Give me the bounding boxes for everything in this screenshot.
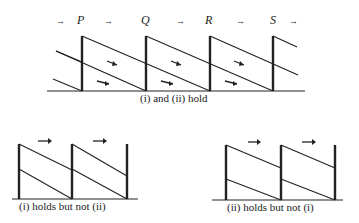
- flow-arrow-icon: →: [289, 16, 298, 26]
- label-r: R: [205, 13, 212, 28]
- flow-arrow-icon: →: [56, 16, 65, 26]
- diagram-canvas: [0, 0, 359, 223]
- caption-top: (i) and (ii) hold: [140, 92, 208, 104]
- caption-bottom-left: (i) holds but not (ii): [19, 200, 106, 212]
- flow-arrow-icon: →: [176, 16, 185, 26]
- flow-arrow-icon: →: [104, 16, 113, 26]
- label-q: Q: [141, 13, 150, 28]
- label-s: S: [270, 13, 276, 28]
- label-p: P: [77, 13, 84, 28]
- caption-bottom-right: (ii) holds but not (i): [227, 201, 314, 213]
- flow-arrow-icon: →: [236, 16, 245, 26]
